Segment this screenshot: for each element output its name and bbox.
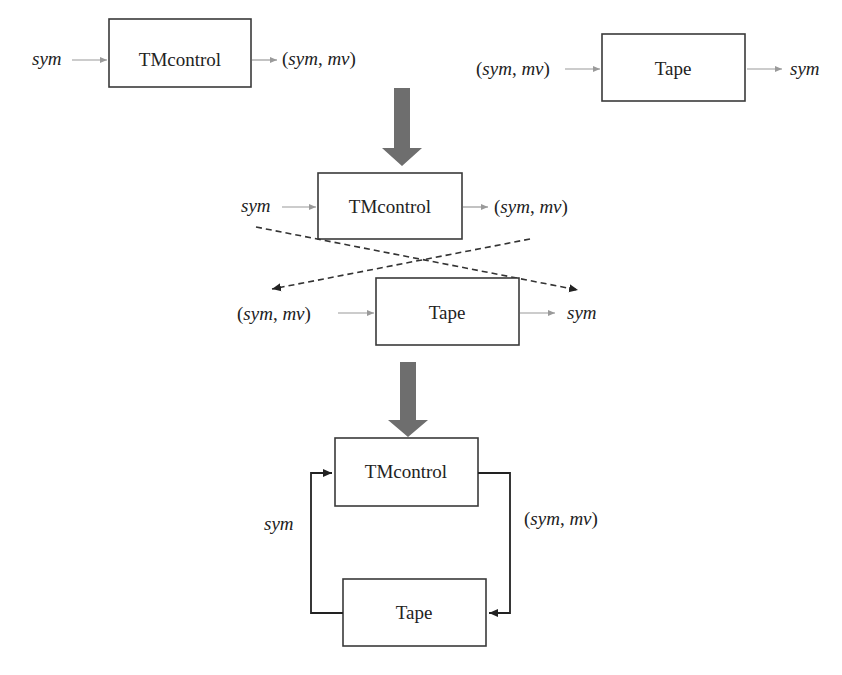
stage1-tmcontrol-label: TMcontrol (139, 49, 221, 70)
stage2-tmcontrol: sym TMcontrol (sym, mv) (241, 173, 568, 239)
stage1-tape-input-label: (sym, mv) (476, 58, 550, 80)
stage3-feedback-right-label: (sym, mv) (524, 508, 598, 530)
stage2-tape: (sym, mv) Tape sym (237, 278, 597, 345)
stage1-tmcontrol-input-label: sym (32, 48, 62, 69)
stage2-tmcontrol-output-label: (sym, mv) (494, 196, 568, 218)
stage1-tape-output-label: sym (790, 58, 820, 79)
stage2-tmcontrol-label: TMcontrol (349, 196, 431, 217)
stage2-tmcontrol-input-label: sym (241, 195, 271, 216)
transform-arrow-2-icon (388, 362, 428, 437)
stage2: sym TMcontrol (sym, mv) (sym, mv) Tape s… (237, 173, 597, 345)
stage1-tape-label: Tape (655, 58, 692, 79)
stage3: TMcontrol Tape (sym, mv) sym (264, 438, 598, 646)
stage1-tmcontrol-output-label: (sym, mv) (282, 48, 356, 70)
stage2-tape-label: Tape (429, 302, 466, 323)
stage1-tmcontrol: sym TMcontrol (sym, mv) (32, 19, 356, 87)
tm-composition-diagram: sym TMcontrol (sym, mv) (sym, mv) Tape s… (0, 0, 842, 675)
stage2-tape-input-label: (sym, mv) (237, 303, 311, 325)
stage3-tape-label: Tape (396, 602, 433, 623)
stage1-tape: (sym, mv) Tape sym (476, 34, 820, 101)
stage3-tmcontrol-label: TMcontrol (365, 461, 447, 482)
transform-arrow-1-icon (382, 88, 422, 166)
stage1: sym TMcontrol (sym, mv) (sym, mv) Tape s… (32, 19, 820, 101)
stage2-tape-output-label: sym (567, 302, 597, 323)
stage3-feedback-left-label: sym (264, 513, 294, 534)
